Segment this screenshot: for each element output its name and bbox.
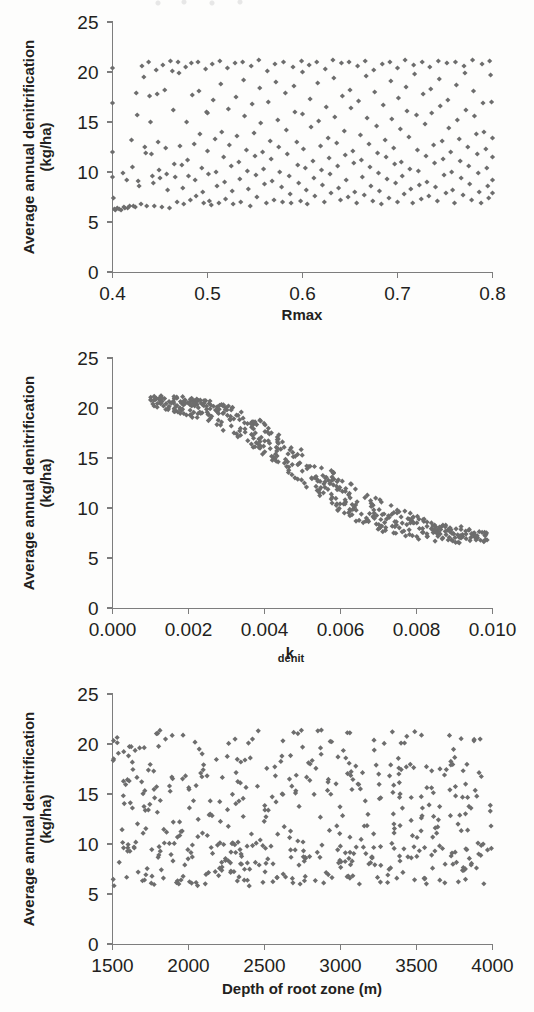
data-point xyxy=(371,831,376,836)
data-point xyxy=(397,780,402,785)
data-point xyxy=(287,776,292,781)
data-point xyxy=(270,178,275,183)
data-point xyxy=(226,741,231,746)
data-point xyxy=(301,848,306,853)
y-axis-title-0: Average annual denitrification (kg/ha) xyxy=(20,40,54,255)
data-point xyxy=(163,737,168,742)
data-point xyxy=(437,878,442,883)
data-point xyxy=(446,125,451,130)
data-point xyxy=(391,783,396,788)
data-point xyxy=(404,734,409,739)
data-point xyxy=(256,57,261,62)
data-point xyxy=(299,728,304,733)
data-point xyxy=(141,74,146,79)
chart-panel-rootzone: 0510152025 150020002500300035004000 Aver… xyxy=(0,672,534,1012)
data-point xyxy=(300,453,305,458)
scatter-svg-kdenit: 0510152025 0.0000.0020.0040.0060.0080.01… xyxy=(0,340,534,672)
data-point xyxy=(196,88,201,93)
data-point xyxy=(167,205,172,210)
data-point xyxy=(302,878,307,883)
data-point xyxy=(138,201,143,206)
data-point xyxy=(229,423,234,428)
data-point xyxy=(397,823,402,828)
data-point xyxy=(419,196,424,201)
data-point xyxy=(461,768,466,773)
data-point xyxy=(235,757,240,762)
data-point xyxy=(318,815,323,820)
data-point xyxy=(392,161,397,166)
data-point xyxy=(409,818,414,823)
data-point xyxy=(183,64,188,69)
data-points-rootzone xyxy=(111,727,494,888)
data-point xyxy=(438,103,443,108)
data-point xyxy=(274,875,279,880)
data-point xyxy=(389,841,394,846)
data-point xyxy=(218,81,223,86)
data-point xyxy=(404,108,409,113)
data-point xyxy=(336,185,341,190)
data-point xyxy=(414,854,419,859)
data-point xyxy=(424,179,429,184)
data-point xyxy=(205,148,210,153)
data-point xyxy=(170,68,175,73)
y-axis-group-1: 0510152025 xyxy=(77,348,112,619)
y-axis-title-line1: Average annual denitrification xyxy=(20,376,37,591)
data-point xyxy=(250,736,255,741)
data-point xyxy=(321,490,326,495)
data-point xyxy=(315,728,320,733)
data-point xyxy=(261,166,266,171)
data-point xyxy=(233,850,238,855)
data-point xyxy=(431,790,436,795)
data-point xyxy=(409,795,414,800)
data-point xyxy=(225,807,230,812)
data-point xyxy=(319,465,324,470)
data-point xyxy=(298,881,303,886)
data-point xyxy=(390,790,395,795)
data-point xyxy=(437,804,442,809)
data-point xyxy=(488,803,493,808)
data-point xyxy=(179,162,184,167)
data-point xyxy=(485,183,490,188)
data-point xyxy=(293,847,298,852)
data-point xyxy=(115,735,120,740)
data-point xyxy=(422,876,427,881)
data-point xyxy=(377,507,382,512)
data-point xyxy=(378,517,383,522)
data-point xyxy=(220,775,225,780)
data-point xyxy=(429,768,434,773)
data-point xyxy=(312,193,317,198)
data-point xyxy=(368,183,373,188)
data-point xyxy=(155,91,160,96)
data-point xyxy=(213,136,218,141)
data-point xyxy=(176,70,181,75)
data-points-rmax xyxy=(110,57,495,212)
data-point xyxy=(247,867,252,872)
x-tick-label: 3500 xyxy=(395,955,437,976)
data-point xyxy=(204,773,209,778)
data-point xyxy=(387,773,392,778)
data-point xyxy=(262,181,267,186)
data-point xyxy=(133,748,138,753)
data-point xyxy=(236,159,241,164)
data-point xyxy=(168,58,173,63)
data-point xyxy=(465,795,470,800)
data-point xyxy=(110,65,115,70)
data-point xyxy=(344,177,349,182)
data-point xyxy=(262,869,267,874)
data-point xyxy=(145,866,150,871)
data-point xyxy=(210,61,215,66)
data-point xyxy=(441,156,446,161)
data-point xyxy=(416,168,421,173)
data-point xyxy=(203,881,208,886)
data-point xyxy=(279,754,284,759)
data-point xyxy=(172,161,177,166)
y-tick-label: 25 xyxy=(77,12,98,33)
x-tick-labels-0: 0.40.50.60.70.8 xyxy=(99,283,505,304)
data-point xyxy=(213,169,218,174)
data-point xyxy=(291,83,296,88)
data-point xyxy=(408,186,413,191)
data-point xyxy=(361,845,366,850)
data-point xyxy=(171,820,176,825)
data-point xyxy=(110,149,115,154)
data-point xyxy=(168,789,173,794)
